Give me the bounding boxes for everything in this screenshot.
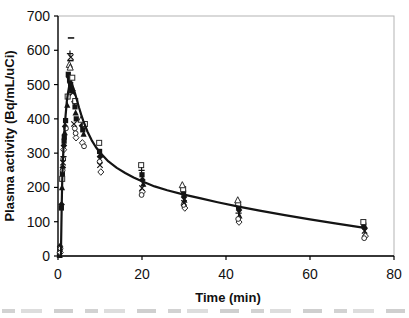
y-tick-label: 400 [27, 111, 51, 127]
marker-open-square [97, 140, 102, 145]
marker-filled-square [74, 116, 79, 121]
y-axis-title: Plasma activity (Bq/mL/uCi) [2, 50, 17, 221]
x-tick-label: 40 [218, 266, 234, 282]
marker-open-triangle [179, 182, 185, 188]
marker-open-circle [73, 131, 78, 136]
marker-open-circle [362, 236, 367, 241]
marker-open-circle [236, 217, 241, 222]
marker-open-square [361, 220, 366, 225]
y-tick-label: 100 [27, 214, 51, 230]
marker-open-diamond [98, 169, 104, 176]
chart-generated-layer: 0100200300400500600700020406080 [27, 8, 402, 282]
marker-open-square [70, 75, 75, 80]
plot-area-frame [58, 16, 394, 256]
marker-open-circle [82, 144, 87, 149]
marker-open-triangle [235, 197, 241, 203]
figure: 0100200300400500600700020406080 Time (mi… [0, 0, 409, 318]
marker-x-cross [68, 54, 73, 59]
marker-open-square [139, 163, 144, 168]
y-tick-label: 200 [27, 179, 51, 195]
plasma-activity-chart: 0100200300400500600700020406080 Time (mi… [0, 0, 409, 318]
y-tick-label: 700 [27, 8, 51, 24]
x-tick-label: 80 [386, 266, 402, 282]
fit-curve [61, 83, 365, 256]
marker-filled-square [72, 104, 77, 109]
x-axis-title: Time (min) [195, 290, 261, 305]
x-tick-label: 0 [54, 266, 62, 282]
marker-open-circle [139, 193, 144, 198]
x-tick-label: 20 [134, 266, 150, 282]
y-tick-label: 0 [42, 248, 50, 264]
x-tick-label: 60 [302, 266, 318, 282]
y-tick-label: 600 [27, 42, 51, 58]
marker-filled-triangle [73, 109, 79, 115]
y-tick-label: 300 [27, 145, 51, 161]
y-tick-label: 500 [27, 77, 51, 93]
cropped-caption-artifact [2, 309, 407, 313]
